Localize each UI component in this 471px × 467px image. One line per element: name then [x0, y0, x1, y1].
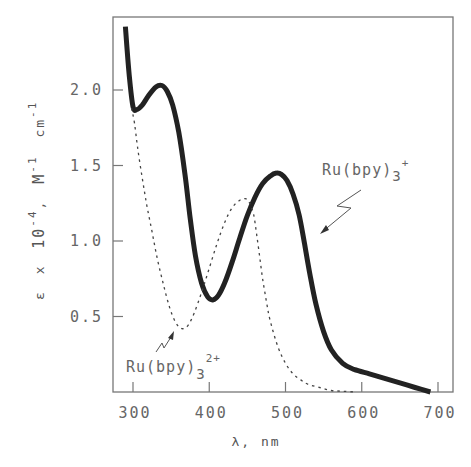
y-axis-ticks: 0.51.01.52.0	[70, 81, 123, 326]
y-tick-label: 0.5	[70, 308, 103, 326]
y-tick-label: 1.5	[70, 157, 103, 175]
y-tick-label: 2.0	[70, 81, 103, 99]
x-tick-label: 400	[195, 404, 228, 422]
absorption-spectrum-chart: 0.51.01.52.0 300400500600700 ε x 10-4, M…	[0, 0, 471, 467]
x-axis-ticks: 300400500600700	[118, 382, 456, 422]
arrowhead-icon	[168, 331, 174, 340]
label-ru-bpy3-2plus: Ru(bpy)32+	[126, 352, 221, 382]
series-ru-bpy3-2plus	[132, 108, 355, 392]
arrow-ru-bpy3-plus	[322, 190, 361, 232]
x-tick-label: 600	[347, 404, 380, 422]
x-axis-title: λ, nm	[231, 434, 280, 449]
arrow-ru-bpy3-2plus	[156, 337, 171, 352]
y-tick-label: 1.0	[70, 232, 103, 250]
label-ru-bpy3-plus: Ru(bpy)3+	[322, 157, 409, 184]
x-tick-label: 300	[118, 404, 151, 422]
y-axis-title: ε x 10-4, M-1 cm-1	[24, 101, 48, 300]
x-tick-label: 700	[423, 404, 456, 422]
plot-frame	[113, 17, 453, 392]
x-tick-label: 500	[271, 404, 304, 422]
arrowhead-icon	[320, 225, 329, 234]
